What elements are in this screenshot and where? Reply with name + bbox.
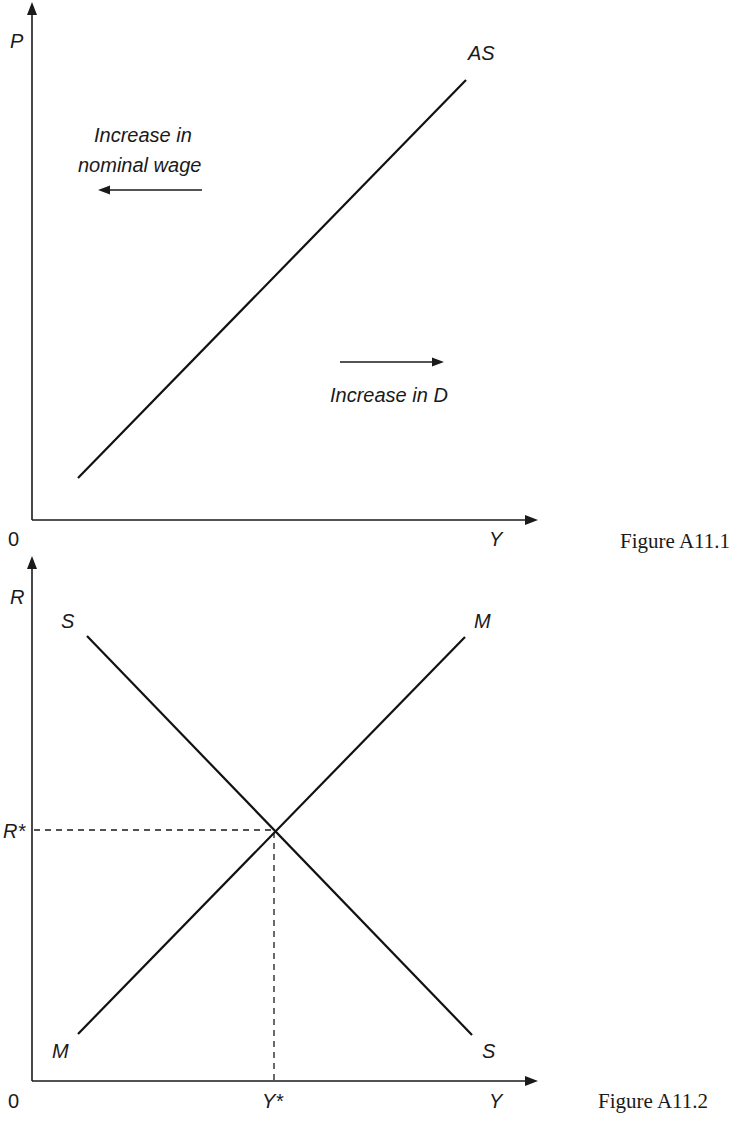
ss-curve-bottom-label: S — [482, 1040, 496, 1062]
x-axis-arrow-icon — [525, 515, 538, 525]
demand-annotation: Increase in D — [330, 384, 448, 406]
mm-curve-bottom-label: M — [52, 1040, 69, 1062]
figure-caption: Figure A11.1 — [620, 529, 730, 553]
mm-curve-top-label: M — [474, 610, 491, 632]
y-axis-label: R — [10, 586, 24, 608]
ss-curve-top-label: S — [61, 610, 75, 632]
y-axis-arrow-icon — [27, 2, 37, 15]
figure-a11-1: P AS 0 Y Increase in nominal wage Increa… — [8, 2, 730, 553]
origin-label: 0 — [8, 1090, 19, 1112]
figure-a11-2: R S M R* M S 0 Y* Y Figure A11.2 — [3, 556, 708, 1113]
diagram-canvas: P AS 0 Y Increase in nominal wage Increa… — [0, 0, 741, 1122]
y-axis-arrow-icon — [27, 556, 37, 569]
x-axis-label: Y — [489, 1090, 504, 1112]
nominal-wage-annotation-line2: nominal wage — [78, 154, 201, 176]
nominal-wage-annotation-line1: Increase in — [94, 124, 192, 146]
r-star-label: R* — [3, 820, 26, 842]
x-axis-label: Y — [489, 528, 504, 550]
ss-curve — [87, 636, 472, 1035]
figure-caption: Figure A11.2 — [598, 1089, 708, 1113]
y-star-label: Y* — [262, 1090, 284, 1112]
y-axis-label: P — [10, 30, 24, 52]
as-curve-label: AS — [467, 42, 495, 64]
mm-curve — [78, 637, 465, 1034]
right-arrow-icon — [432, 358, 444, 367]
origin-label: 0 — [8, 528, 19, 550]
left-arrow-icon — [98, 186, 110, 195]
x-axis-arrow-icon — [525, 1076, 538, 1086]
